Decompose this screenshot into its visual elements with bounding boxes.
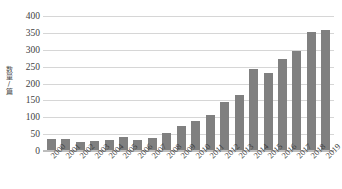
x-slot: 2019 — [319, 151, 333, 189]
bar-slot — [174, 16, 188, 151]
bar-slot — [73, 16, 87, 151]
x-slot: 2012 — [217, 151, 231, 189]
y-axis-tick-label: 300 — [16, 45, 40, 55]
y-axis-tick-label: 100 — [16, 112, 40, 122]
y-axis-tick-label: 400 — [16, 11, 40, 21]
x-slot: 2008 — [160, 151, 174, 189]
y-axis-title: 数量/篇 — [2, 50, 16, 110]
bar-slot — [58, 16, 72, 151]
bar-slot — [160, 16, 174, 151]
x-slot: 2006 — [131, 151, 145, 189]
x-slot: 2003 — [87, 151, 101, 189]
bar — [321, 30, 330, 152]
bar — [249, 69, 258, 151]
bar-slot — [203, 16, 217, 151]
bar-slot — [232, 16, 246, 151]
x-slot: 2013 — [232, 151, 246, 189]
x-slot: 2000 — [44, 151, 58, 189]
y-axis-tick-label: 350 — [16, 28, 40, 38]
bar-slot — [275, 16, 289, 151]
x-slot: 2011 — [203, 151, 217, 189]
x-slot: 2018 — [304, 151, 318, 189]
y-axis-tick-label: 0 — [16, 146, 40, 156]
bar-slot — [290, 16, 304, 151]
bar-series — [43, 16, 334, 151]
x-slot: 2002 — [73, 151, 87, 189]
x-slot: 2010 — [189, 151, 203, 189]
bar-slot — [102, 16, 116, 151]
bar — [264, 73, 273, 151]
bar-slot — [217, 16, 231, 151]
bar-slot — [131, 16, 145, 151]
bar — [292, 51, 301, 151]
x-slot: 2005 — [116, 151, 130, 189]
y-axis-tick-label: 150 — [16, 95, 40, 105]
bar-slot — [304, 16, 318, 151]
y-axis-tick-label: 200 — [16, 79, 40, 89]
x-slot: 2017 — [290, 151, 304, 189]
bar — [307, 32, 316, 151]
x-slot: 2007 — [145, 151, 159, 189]
bar-slot — [189, 16, 203, 151]
x-slot: 2009 — [174, 151, 188, 189]
x-slot: 2001 — [58, 151, 72, 189]
y-axis-tick-label: 50 — [16, 129, 40, 139]
plot-area — [43, 16, 334, 151]
x-slot: 2004 — [102, 151, 116, 189]
x-slot: 2016 — [275, 151, 289, 189]
bar-slot — [319, 16, 333, 151]
bar-slot — [246, 16, 260, 151]
bar — [278, 59, 287, 151]
bar-slot — [87, 16, 101, 151]
bar-slot — [145, 16, 159, 151]
bar-slot — [116, 16, 130, 151]
bar-slot — [44, 16, 58, 151]
x-slot: 2014 — [246, 151, 260, 189]
y-axis-tick-labels: 050100150200250300350400 — [16, 11, 40, 151]
x-slot: 2015 — [261, 151, 275, 189]
x-axis-tick-labels: 2000200120022003200420052006200720082009… — [43, 151, 334, 189]
y-axis-tick-label: 250 — [16, 62, 40, 72]
bar-slot — [261, 16, 275, 151]
